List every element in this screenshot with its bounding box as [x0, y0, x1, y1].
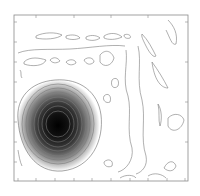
peak-blob — [18, 80, 102, 171]
contour-plot — [0, 0, 200, 196]
